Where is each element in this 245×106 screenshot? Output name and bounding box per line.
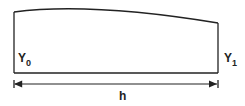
width-label: h (119, 89, 126, 103)
left-ordinate-label: Y0 (18, 51, 31, 68)
diagram-canvas: Y0 Y1 h (0, 0, 245, 106)
right-ordinate-label: Y1 (224, 51, 237, 68)
curve (14, 9, 218, 23)
